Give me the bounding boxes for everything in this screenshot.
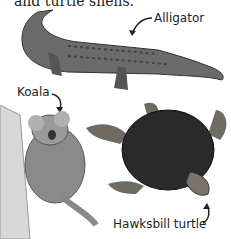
koala-label: Koala bbox=[17, 85, 50, 99]
alligator-label: Alligator bbox=[154, 11, 204, 25]
turtle-label: Hawksbill turtle bbox=[113, 217, 207, 231]
alligator-arrow-icon bbox=[128, 14, 154, 38]
turtle-illustration bbox=[84, 100, 230, 205]
turtle-arrow-icon bbox=[200, 203, 214, 225]
